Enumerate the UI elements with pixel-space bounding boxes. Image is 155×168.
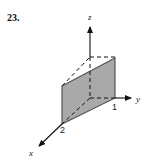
x-axis-label: x: [28, 148, 33, 158]
y-axis-label: y: [135, 94, 140, 104]
shaded-plane: [62, 58, 115, 124]
3d-diagram: z y x 1 2: [0, 0, 155, 168]
x-axis: [39, 124, 62, 146]
y-intercept-label: 1: [112, 102, 117, 112]
z-axis-label: z: [87, 12, 92, 22]
x-intercept-label: 2: [60, 125, 65, 135]
